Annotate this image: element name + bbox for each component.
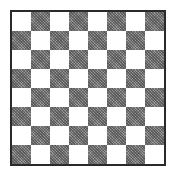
square-d7[interactable] bbox=[69, 31, 88, 50]
square-e2[interactable] bbox=[88, 126, 107, 145]
square-c3[interactable] bbox=[50, 107, 69, 126]
square-g4[interactable] bbox=[126, 88, 145, 107]
square-c8[interactable] bbox=[50, 12, 69, 31]
square-c2[interactable] bbox=[50, 126, 69, 145]
square-h8[interactable] bbox=[145, 12, 164, 31]
square-g5[interactable] bbox=[126, 69, 145, 88]
square-b8[interactable] bbox=[31, 12, 50, 31]
square-f2[interactable] bbox=[107, 126, 126, 145]
square-h4[interactable] bbox=[145, 88, 164, 107]
square-d3[interactable] bbox=[69, 107, 88, 126]
square-a7[interactable] bbox=[12, 31, 31, 50]
square-g2[interactable] bbox=[126, 126, 145, 145]
square-f1[interactable] bbox=[107, 145, 126, 164]
square-e6[interactable] bbox=[88, 50, 107, 69]
square-c7[interactable] bbox=[50, 31, 69, 50]
square-b7[interactable] bbox=[31, 31, 50, 50]
square-a8[interactable] bbox=[12, 12, 31, 31]
square-c4[interactable] bbox=[50, 88, 69, 107]
square-b3[interactable] bbox=[31, 107, 50, 126]
square-a4[interactable] bbox=[12, 88, 31, 107]
square-h6[interactable] bbox=[145, 50, 164, 69]
square-d5[interactable] bbox=[69, 69, 88, 88]
square-h5[interactable] bbox=[145, 69, 164, 88]
square-b1[interactable] bbox=[31, 145, 50, 164]
square-e1[interactable] bbox=[88, 145, 107, 164]
square-c6[interactable] bbox=[50, 50, 69, 69]
square-h7[interactable] bbox=[145, 31, 164, 50]
square-f3[interactable] bbox=[107, 107, 126, 126]
square-d4[interactable] bbox=[69, 88, 88, 107]
square-g6[interactable] bbox=[126, 50, 145, 69]
square-a5[interactable] bbox=[12, 69, 31, 88]
square-e4[interactable] bbox=[88, 88, 107, 107]
square-d6[interactable] bbox=[69, 50, 88, 69]
square-g3[interactable] bbox=[126, 107, 145, 126]
square-b5[interactable] bbox=[31, 69, 50, 88]
square-h2[interactable] bbox=[145, 126, 164, 145]
square-b4[interactable] bbox=[31, 88, 50, 107]
square-h1[interactable] bbox=[145, 145, 164, 164]
square-b2[interactable] bbox=[31, 126, 50, 145]
square-b6[interactable] bbox=[31, 50, 50, 69]
square-e3[interactable] bbox=[88, 107, 107, 126]
square-a6[interactable] bbox=[12, 50, 31, 69]
square-f6[interactable] bbox=[107, 50, 126, 69]
square-f4[interactable] bbox=[107, 88, 126, 107]
square-d8[interactable] bbox=[69, 12, 88, 31]
square-a1[interactable] bbox=[12, 145, 31, 164]
square-g7[interactable] bbox=[126, 31, 145, 50]
chess-board[interactable] bbox=[10, 10, 166, 166]
square-c1[interactable] bbox=[50, 145, 69, 164]
square-e5[interactable] bbox=[88, 69, 107, 88]
square-g8[interactable] bbox=[126, 12, 145, 31]
square-f5[interactable] bbox=[107, 69, 126, 88]
square-d2[interactable] bbox=[69, 126, 88, 145]
square-e7[interactable] bbox=[88, 31, 107, 50]
square-d1[interactable] bbox=[69, 145, 88, 164]
square-a3[interactable] bbox=[12, 107, 31, 126]
square-h3[interactable] bbox=[145, 107, 164, 126]
square-f8[interactable] bbox=[107, 12, 126, 31]
square-c5[interactable] bbox=[50, 69, 69, 88]
square-a2[interactable] bbox=[12, 126, 31, 145]
square-f7[interactable] bbox=[107, 31, 126, 50]
square-e8[interactable] bbox=[88, 12, 107, 31]
square-g1[interactable] bbox=[126, 145, 145, 164]
